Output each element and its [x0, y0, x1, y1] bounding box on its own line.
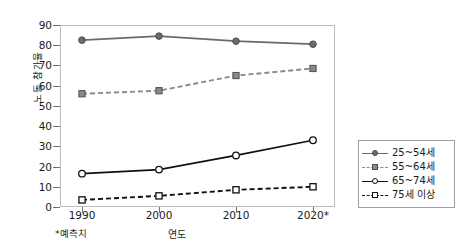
data-point — [233, 72, 239, 78]
legend-item-3[interactable]: 65~74세 — [362, 174, 450, 188]
series-line — [82, 36, 313, 44]
series-4 — [79, 184, 316, 203]
data-point — [310, 65, 316, 71]
data-point — [156, 166, 163, 173]
legend-sample-icon — [362, 175, 388, 187]
data-point — [156, 33, 163, 40]
data-point — [233, 187, 239, 193]
legend-sample-icon — [362, 189, 388, 201]
series-1 — [79, 33, 317, 48]
data-point — [79, 170, 86, 177]
data-point — [233, 152, 240, 159]
legend-sample-icon — [362, 161, 388, 173]
series-2 — [79, 65, 316, 96]
data-point — [156, 88, 162, 94]
data-point — [156, 193, 162, 199]
chart-footnote: *예측치 — [55, 226, 87, 240]
data-point — [310, 41, 317, 48]
series-layer — [0, 0, 460, 248]
legend-item-2[interactable]: 55~64세 — [362, 160, 450, 174]
series-3 — [79, 137, 317, 177]
legend-label: 25~54세 — [392, 148, 435, 158]
y-axis-label: 노동 참가율 — [30, 32, 44, 122]
chart-legend: 25~54세55~64세65~74세75세 이상 — [358, 140, 455, 208]
legend-label: 65~74세 — [392, 176, 435, 186]
legend-label: 55~64세 — [392, 162, 435, 172]
legend-item-1[interactable]: 25~54세 — [362, 146, 450, 160]
data-point — [310, 184, 316, 190]
data-point — [79, 37, 86, 44]
legend-item-4[interactable]: 75세 이상 — [362, 188, 450, 202]
data-point — [310, 137, 317, 144]
legend-sample-icon — [362, 147, 388, 159]
x-axis-label: 연도 — [168, 226, 186, 241]
series-line — [82, 68, 313, 93]
series-line — [82, 187, 313, 200]
chart-figure: 9080706050403020100 1990200020102020* 노동… — [0, 0, 460, 248]
data-point — [233, 38, 240, 45]
data-point — [79, 197, 85, 203]
series-line — [82, 140, 313, 173]
legend-label: 75세 이상 — [392, 190, 435, 200]
data-point — [79, 91, 85, 97]
